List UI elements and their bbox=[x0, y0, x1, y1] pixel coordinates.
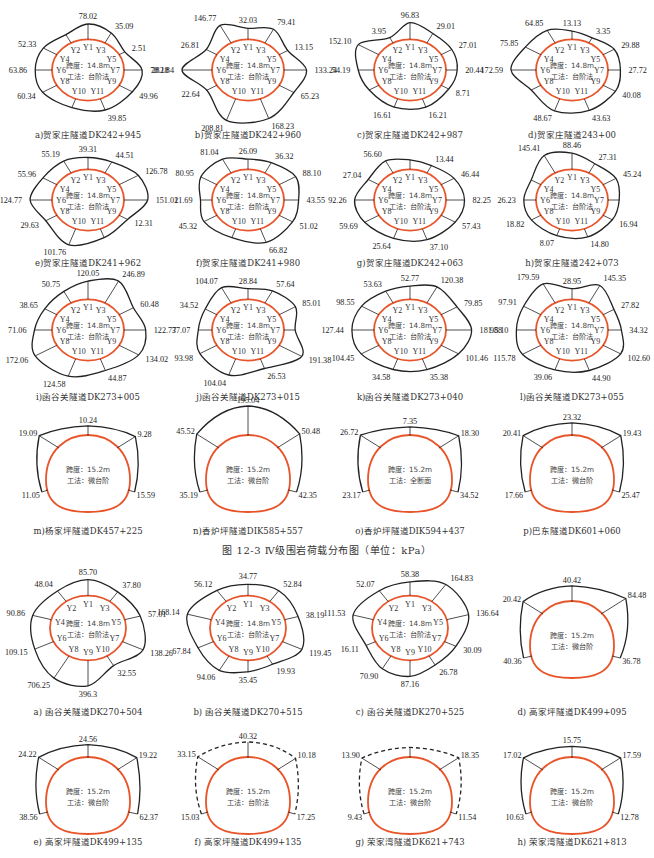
point-label-y10: Y10 bbox=[394, 87, 408, 96]
load-value-y11: 39.85 bbox=[108, 114, 126, 123]
load-spoke bbox=[547, 30, 555, 43]
load-spoke bbox=[35, 345, 57, 356]
span-label: 跨度：14.8m bbox=[226, 191, 270, 200]
point-label-y1: Y1 bbox=[405, 303, 415, 312]
span-label: 跨度：14.8m bbox=[388, 321, 432, 330]
point-label-y1: Y1 bbox=[243, 303, 253, 312]
load-value-left-shoulder: 26.72 bbox=[340, 428, 358, 437]
load-spoke bbox=[119, 52, 125, 55]
load-value-y3: 246.89 bbox=[122, 270, 145, 279]
load-spoke bbox=[64, 291, 71, 303]
point-label-y6: Y6 bbox=[216, 196, 226, 205]
load-value-y6: 37.07 bbox=[172, 326, 190, 335]
load-value-y6: 71.06 bbox=[8, 326, 26, 335]
load-spoke bbox=[267, 656, 273, 664]
point-label-y7: Y7 bbox=[270, 66, 280, 75]
load-value-left-shoulder: 33.15 bbox=[177, 750, 195, 759]
load-spoke bbox=[368, 179, 379, 184]
load-value-y3: 35.09 bbox=[115, 22, 133, 31]
load-spoke bbox=[206, 49, 217, 54]
load-spoke bbox=[260, 99, 268, 119]
load-value-y11: 14.80 bbox=[591, 240, 609, 249]
load-spoke bbox=[555, 99, 560, 111]
method-label: 工法：台阶法 bbox=[389, 630, 431, 639]
load-spoke bbox=[422, 99, 426, 107]
load-spoke bbox=[201, 177, 217, 185]
load-value-left-shoulder: 20.41 bbox=[503, 429, 521, 438]
load-spoke bbox=[122, 642, 143, 650]
load-spoke bbox=[584, 229, 587, 237]
point-label-y3: Y3 bbox=[422, 604, 432, 613]
load-spoke bbox=[205, 309, 217, 315]
point-label-y5: Y5 bbox=[433, 618, 443, 627]
load-value-y5: 60.48 bbox=[140, 300, 158, 309]
load-value-y9: 16.94 bbox=[619, 220, 637, 229]
load-value-left-wall: 35.19 bbox=[179, 491, 197, 500]
span-label: 跨度：14.8m bbox=[550, 191, 594, 200]
load-value-y6: 21.69 bbox=[174, 196, 192, 205]
load-spoke bbox=[232, 229, 236, 238]
load-value-right-wall: 15.59 bbox=[137, 491, 155, 500]
point-label-y2: Y2 bbox=[554, 306, 564, 315]
load-value-y6: 54.19 bbox=[332, 66, 350, 75]
load-value-left-shoulder: 45.52 bbox=[176, 427, 194, 436]
load-value-y2: 179.59 bbox=[517, 273, 540, 282]
point-label-y11: Y11 bbox=[412, 217, 425, 226]
method-label: 工法：台阶法 bbox=[67, 202, 109, 211]
load-value-crown: 7.35 bbox=[403, 417, 417, 426]
load-value-y8: 172.06 bbox=[6, 356, 29, 365]
load-value-left-wall: 17.66 bbox=[505, 491, 523, 500]
load-value-crown: 195.04 bbox=[237, 396, 260, 405]
load-spoke bbox=[441, 307, 457, 315]
load-spoke bbox=[279, 85, 294, 92]
point-label-y2: Y2 bbox=[388, 604, 398, 613]
point-label-y10: Y10 bbox=[394, 217, 408, 226]
method-label: 工法：台阶法 bbox=[227, 202, 269, 211]
load-value-y6: 92.26 bbox=[328, 196, 346, 205]
point-label-y2: Y2 bbox=[70, 176, 80, 185]
load-value-y8: 29.63 bbox=[20, 221, 38, 230]
load-value-y3: 52.84 bbox=[283, 580, 301, 589]
load-value-right-shoulder: 18.30 bbox=[461, 429, 479, 438]
load-value-left-wall: 10.63 bbox=[506, 813, 524, 822]
load-spoke bbox=[207, 85, 217, 90]
load-value-y9: 51.02 bbox=[299, 222, 317, 231]
load-value-left-wall: 23.17 bbox=[342, 491, 360, 500]
point-label-y6: Y6 bbox=[56, 66, 66, 75]
load-spoke bbox=[119, 345, 139, 355]
method-label: 工法：台阶法 bbox=[227, 798, 269, 807]
load-value-y10: 34.58 bbox=[372, 373, 390, 382]
load-value-y1: 32.03 bbox=[239, 16, 257, 25]
point-label-y7: Y7 bbox=[594, 66, 604, 75]
load-spoke bbox=[603, 178, 616, 184]
load-spoke bbox=[105, 33, 111, 43]
method-label: 工法：台阶法 bbox=[67, 630, 109, 639]
point-label-y9: Y9 bbox=[243, 648, 253, 657]
point-label-y11: Y11 bbox=[574, 217, 587, 226]
span-label: 跨度：15.2m bbox=[550, 631, 594, 640]
load-value-left-shoulder: 13.90 bbox=[341, 751, 359, 760]
load-spoke bbox=[54, 656, 69, 678]
load-spoke bbox=[39, 757, 59, 770]
load-value-y6: 109.15 bbox=[5, 648, 28, 657]
load-value-y8: 18.82 bbox=[506, 220, 524, 229]
load-value-y1: 88.46 bbox=[563, 141, 581, 150]
load-spoke bbox=[110, 592, 118, 602]
figure-caption: 图 12-3 Ⅳ级围岩荷载分布图（单位：kPa） bbox=[0, 542, 654, 557]
load-value-y1: 78.02 bbox=[79, 12, 97, 21]
point-label-y4: Y4 bbox=[55, 618, 65, 627]
load-spoke bbox=[390, 38, 393, 43]
span-label: 跨度：15.2m bbox=[388, 787, 432, 796]
load-value-y9: 12.31 bbox=[134, 219, 152, 228]
load-spoke bbox=[361, 345, 379, 354]
load-spoke bbox=[427, 34, 433, 43]
load-spoke bbox=[265, 29, 274, 43]
point-label-y2: Y2 bbox=[392, 306, 402, 315]
panel-caption: m)杨家坪隧道DK457+225 bbox=[8, 524, 168, 536]
load-value-right-shoulder: 19.43 bbox=[623, 429, 641, 438]
load-value-right-shoulder: 17.59 bbox=[623, 751, 641, 760]
load-value-y9: 102.60 bbox=[628, 354, 651, 363]
load-value-right-wall: 34.52 bbox=[460, 491, 478, 500]
load-value-y10: 16.61 bbox=[373, 111, 391, 120]
load-spoke bbox=[544, 155, 555, 172]
